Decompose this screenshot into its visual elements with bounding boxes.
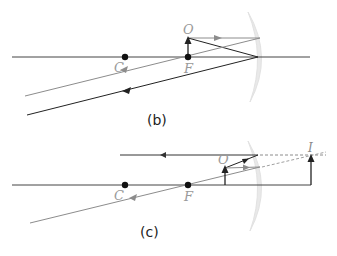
reflected-ray-vertex-b — [27, 57, 258, 115]
ray-arrow-icon — [160, 152, 166, 158]
label-f-b: F — [183, 61, 194, 76]
label-o-b: O — [183, 22, 194, 37]
ray-arrow-icon — [122, 87, 131, 94]
label-c-c: C — [114, 188, 124, 203]
diagram-c: C F O I (c) — [12, 141, 326, 240]
ray-arrow-icon — [129, 194, 137, 201]
label-i-c: I — [307, 141, 313, 155]
diagram-b: C F O (b) — [12, 12, 310, 128]
label-f-c: F — [183, 189, 194, 204]
ray-arrow-icon — [214, 35, 222, 41]
point-f-b — [185, 54, 191, 60]
arrowhead-icon — [185, 36, 192, 44]
incident-ray-focus-c — [225, 155, 258, 168]
reflected-ray-focus-b — [25, 38, 260, 96]
ray-diagram-canvas: C F O (b) C — [0, 0, 337, 256]
label-o-c: O — [218, 152, 229, 167]
point-f-c — [185, 182, 191, 188]
virtual-ray-extension-2 — [262, 152, 326, 167]
caption-c: (c) — [140, 224, 159, 240]
label-c-b: C — [114, 60, 124, 75]
caption-b: (b) — [147, 112, 167, 128]
ray-arrow-icon — [242, 159, 249, 165]
